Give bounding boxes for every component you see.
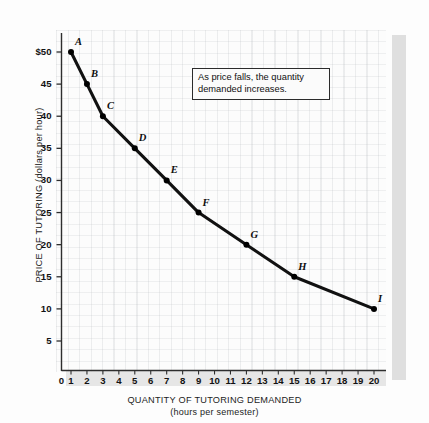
data-point-label-c: C	[107, 100, 114, 111]
x-axis-subtitle: (hours per semester)	[0, 407, 429, 417]
data-point-label-d: D	[139, 132, 147, 143]
y-tick-label: $50	[16, 46, 52, 57]
data-point-label-h: H	[298, 261, 306, 272]
x-tick-label: 20	[363, 375, 385, 386]
y-axis-title: PRICE OF TUTORING (dollars per hour)	[34, 70, 44, 320]
y-axis-ticks	[57, 52, 62, 341]
data-point-marker	[100, 113, 106, 119]
data-point-marker	[132, 145, 138, 151]
data-point-marker	[84, 81, 90, 87]
data-point-label-f: F	[203, 197, 210, 208]
data-point-marker	[164, 177, 170, 183]
data-point-marker	[196, 210, 202, 216]
data-point-label-e: E	[171, 164, 178, 175]
x-axis-title: QUANTITY OF TUTORING DEMANDED	[0, 395, 429, 405]
data-point-marker	[371, 306, 377, 312]
data-point-label-b: B	[91, 68, 98, 79]
demand-curve-plot	[0, 0, 429, 423]
y-tick-label: 5	[16, 335, 52, 346]
data-point-label-a: A	[75, 36, 82, 47]
data-point-marker	[68, 49, 74, 55]
data-point-marker	[243, 242, 249, 248]
callout-annotation: As price falls, the quantity demanded in…	[192, 68, 330, 100]
data-point-marker	[291, 274, 297, 280]
data-point-label-i: I	[378, 293, 382, 304]
figure-container: $5045403530252015105 0123456789101112131…	[0, 0, 429, 423]
data-point-label-g: G	[250, 229, 258, 240]
